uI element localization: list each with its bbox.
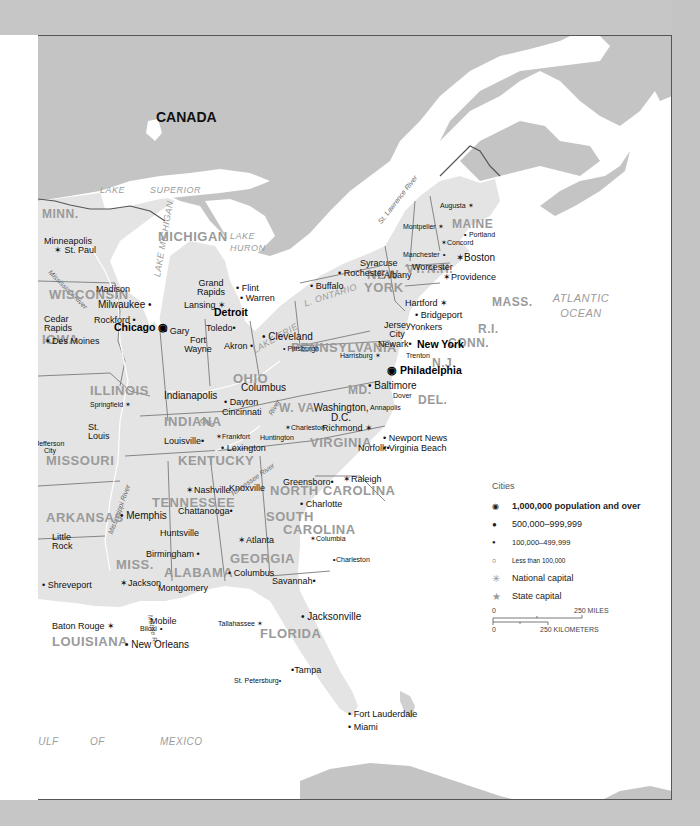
city-jefferson-city: Jefferson City: [38, 440, 70, 454]
city-fort-wayne: Fort Wayne: [183, 336, 213, 354]
city-boston: ✶Boston: [456, 253, 495, 263]
city-knoxville: Knoxville: [229, 484, 265, 493]
city-columbus-ga: • Columbus: [228, 569, 274, 578]
city-toledo-label: Toledo: [206, 323, 233, 333]
city-springfield-label: Springfield: [90, 401, 123, 408]
city-virginia-beach: • Virginia Beach: [383, 444, 447, 453]
state-label-miss: MISS.: [116, 558, 154, 571]
city-raleigh: ✶Raleigh: [343, 475, 382, 484]
city-akron-label: Akron: [224, 341, 248, 351]
city-nashville: ✶Nashville: [186, 486, 231, 495]
city-boston-label: Boston: [464, 252, 495, 263]
city-baton-rouge: Baton Rouge ✶: [52, 622, 115, 631]
gulf-label-2: OF: [90, 737, 105, 747]
national-capital-star-icon: ✳: [492, 573, 512, 584]
city-nashville-label: Nashville: [194, 485, 231, 495]
city-columbia-label: Columbia: [316, 535, 346, 542]
city-miami: • Miami: [348, 723, 378, 732]
city-albany: Albany: [384, 271, 412, 280]
city-charlotte-label: Charlotte: [306, 499, 343, 509]
city-little-rock: Little Rock: [52, 533, 78, 551]
city-montpelier-label: Montpelier: [403, 223, 436, 230]
city-gary: • Gary: [164, 327, 189, 336]
large-dot-icon: ●: [492, 520, 512, 529]
atlantic-ocean-label: ATLANTIC OCEAN: [546, 293, 616, 319]
city-frankfort-label: Frankfort: [222, 433, 250, 440]
legend-label: Less than 100,000: [512, 557, 566, 564]
city-chattanooga: Chattanooga•: [178, 507, 233, 516]
state-label-ri: R.I.: [478, 323, 499, 335]
state-label-illinois: ILLINOIS: [90, 384, 149, 397]
city-st-paul-label: St. Paul: [65, 245, 97, 255]
city-trenton: Trenton: [406, 352, 430, 359]
city-tampa: •Tampa: [291, 666, 321, 675]
scale-miles-label: 250 MILES: [574, 607, 609, 614]
lake-ontario: [300, 239, 355, 263]
city-jackson-label: Jackson: [128, 578, 161, 588]
city-charleston-wv: ✶Charleston: [285, 424, 325, 431]
state-label-maine: MAINE: [452, 218, 493, 230]
city-concord: ✶Concord: [441, 239, 473, 246]
city-biloxi: Biloxi ∘: [140, 625, 163, 632]
city-baltimore-label: Baltimore: [374, 380, 416, 391]
city-gary-label: Gary: [170, 326, 190, 336]
city-jackson: ✶Jackson: [120, 579, 161, 588]
scale-km-zero: 0: [492, 626, 496, 633]
city-harrisburg: Harrisburg ✶: [340, 352, 381, 359]
city-yonkers: Yonkers: [410, 323, 442, 332]
city-birmingham: Birmingham •: [146, 550, 200, 559]
city-richmond-label: Richmond: [322, 423, 363, 433]
city-tallahassee-label: Tallahassee: [218, 620, 255, 627]
city-syracuse: Syracuse: [360, 259, 398, 268]
gulf-label-1: GULF: [38, 737, 59, 747]
city-huntington: Huntington: [260, 434, 294, 441]
city-frankfort: ✶Frankfort: [216, 433, 250, 440]
city-milwaukee-label: Milwaukee: [98, 299, 145, 310]
legend-label: 500,000–999,999: [512, 519, 582, 529]
city-baltimore: • Baltimore: [368, 381, 417, 391]
city-greensboro-label: Greensboro: [283, 477, 331, 487]
city-pittsburgh-label: Pittsburgh: [287, 345, 319, 352]
city-st-petersburg-label: St. Petersburg: [234, 677, 279, 684]
state-label-louisiana: LOUISIANA: [52, 635, 128, 648]
city-providence-label: Providence: [451, 272, 496, 282]
city-shreveport-label: Shreveport: [48, 580, 92, 590]
city-manchester: Manchester ∘: [403, 251, 446, 258]
open-circle-icon: ○: [492, 557, 512, 564]
city-lansing-label: Lansing: [184, 300, 216, 310]
lake-huron-label-2: HURON: [230, 244, 266, 253]
city-tallahassee: Tallahassee ✶: [218, 620, 263, 627]
legend-label: State capital: [512, 591, 562, 601]
city-columbus-oh: Columbus: [241, 383, 286, 393]
atlantic-label-1: ATLANTIC: [546, 293, 616, 304]
city-newport-news-label: Newport News: [389, 433, 448, 443]
city-grand-rapids: Grand Rapids: [191, 279, 231, 297]
city-jacksonville: • Jacksonville: [301, 612, 361, 622]
state-label-indiana: INDIANA: [164, 415, 222, 428]
city-philadelphia-label: Philadelphia: [400, 364, 462, 376]
city-shreveport: • Shreveport: [42, 581, 92, 590]
city-fort-lauderdale: • Fort Lauderdale: [348, 710, 417, 719]
city-detroit-label: Detroit: [214, 306, 248, 318]
city-concord-label: Concord: [447, 239, 473, 246]
city-springfield: Springfield ✶: [90, 401, 131, 408]
city-virginia-beach-label: Virginia Beach: [389, 443, 447, 453]
city-jersey-city: Jersey City: [384, 321, 410, 339]
circled-dot-icon: ◉: [492, 502, 512, 511]
legend-row-national-capital: ✳ National capital: [492, 569, 672, 587]
city-chattanooga-label: Chattanooga: [178, 506, 230, 516]
city-hartford-label: Hartford: [405, 298, 438, 308]
city-charleston-sc: ∘Charleston: [332, 556, 370, 563]
city-charlotte: • Charlotte: [300, 500, 342, 509]
state-label-del: DEL.: [418, 394, 447, 406]
left-margin: [0, 35, 38, 800]
city-chicago-label: Chicago: [114, 321, 155, 333]
city-st-paul: ✶ St. Paul: [54, 246, 96, 255]
city-flint: • Flint: [236, 284, 259, 293]
city-columbus-ga-label: Columbus: [234, 568, 275, 578]
city-dayton-label: Dayton: [230, 397, 259, 407]
city-buffalo: • Buffalo: [310, 282, 344, 291]
lake-superior-label-2: SUPERIOR: [150, 186, 201, 195]
legend-row-500k: ● 500,000–999,999: [492, 515, 672, 533]
legend-row-state-capital: ★ State capital: [492, 587, 672, 605]
